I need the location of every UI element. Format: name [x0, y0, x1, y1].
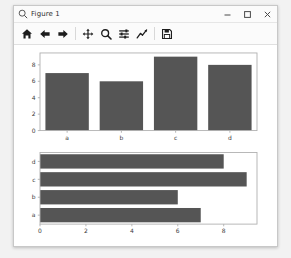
- maximize-button[interactable]: [237, 6, 257, 23]
- close-icon: [263, 10, 272, 19]
- y-tick-label: d: [32, 158, 36, 165]
- window-controls: [217, 6, 277, 22]
- y-tick-label: 4: [32, 94, 36, 101]
- line-chart-icon: [136, 28, 148, 40]
- arrow-left-icon: [39, 28, 51, 40]
- matplotlib-figure-icon: [18, 9, 28, 19]
- bar-b: [100, 81, 143, 130]
- toolbar-separator-1: [75, 27, 76, 40]
- maximize-icon: [243, 10, 252, 19]
- y-tick-label: 2: [32, 110, 36, 117]
- matplotlib-toolbar: [14, 23, 277, 45]
- close-button[interactable]: [257, 6, 277, 23]
- y-tick-label: a: [32, 211, 36, 218]
- x-tick-label: a: [65, 134, 69, 141]
- floppy-disk-icon: [161, 28, 173, 40]
- x-tick-label: c: [174, 134, 177, 141]
- subplot-top-vertical-bar[interactable]: 02468 abcd: [32, 53, 257, 141]
- x-tick-label: 8: [222, 227, 226, 234]
- y-tick-label: 8: [32, 61, 36, 68]
- pan-button[interactable]: [79, 25, 96, 43]
- bar-b: [40, 190, 178, 204]
- x-tick-label: d: [228, 134, 232, 141]
- home-button[interactable]: [18, 25, 35, 43]
- x-tick-label: 6: [176, 227, 180, 234]
- move-icon: [82, 28, 94, 40]
- edit-axis-button[interactable]: [133, 25, 150, 43]
- minimize-button[interactable]: [217, 6, 237, 23]
- figure-canvas-area[interactable]: 02468 abcd abcd 02468: [14, 45, 277, 246]
- magnifier-icon: [100, 28, 112, 40]
- title-bar: Figure 1: [14, 6, 277, 23]
- subplot-bottom-horizontal-bar[interactable]: abcd 02468: [32, 152, 257, 234]
- arrow-right-icon: [57, 28, 69, 40]
- sliders-icon: [118, 28, 130, 40]
- figure-window: Figure 1: [13, 5, 278, 247]
- toolbar-separator-2: [154, 27, 155, 40]
- x-tick-label: 0: [38, 227, 42, 234]
- y-tick-label: b: [32, 193, 36, 200]
- bar-c: [154, 57, 197, 131]
- window-title: Figure 1: [31, 6, 217, 23]
- x-tick-label: 2: [84, 227, 88, 234]
- x-tick-label: b: [119, 134, 123, 141]
- bar-c: [40, 172, 247, 186]
- configure-subplots-button[interactable]: [115, 25, 132, 43]
- x-tick-label: 4: [130, 227, 134, 234]
- minimize-icon: [223, 10, 232, 19]
- home-icon: [21, 28, 33, 40]
- y-tick-label: 0: [32, 127, 36, 134]
- y-tick-label: 6: [32, 78, 36, 85]
- forward-button[interactable]: [54, 25, 71, 43]
- bar-a: [45, 73, 88, 130]
- back-button[interactable]: [36, 25, 53, 43]
- figure-canvas[interactable]: 02468 abcd abcd 02468: [14, 45, 277, 246]
- bar-d: [40, 154, 224, 168]
- zoom-button[interactable]: [97, 25, 114, 43]
- y-tick-label: c: [32, 176, 35, 183]
- bar-d: [208, 65, 251, 131]
- save-button[interactable]: [158, 25, 175, 43]
- bar-a: [40, 208, 201, 222]
